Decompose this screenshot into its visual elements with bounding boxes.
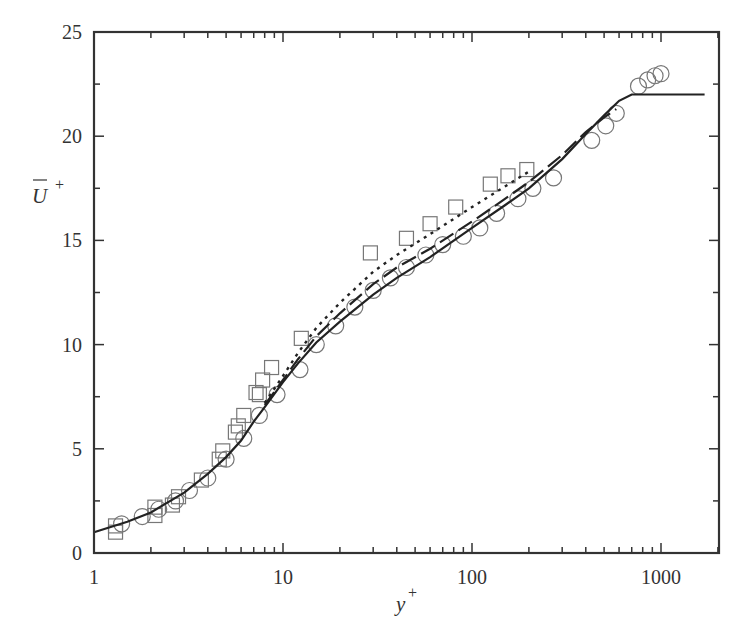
y-tick-label: 0 (72, 542, 82, 564)
square-marker (363, 246, 377, 260)
dotted-line (265, 172, 529, 403)
x-axis-ticks (151, 32, 718, 553)
circle-marker (653, 66, 669, 82)
y-tick-label: 5 (72, 438, 82, 460)
x-tick-label: 100 (457, 566, 487, 588)
square-marker (256, 373, 270, 387)
y-axis-tick-labels: 0510152025 (62, 21, 82, 564)
x-axis-label-main: y (394, 592, 406, 616)
plot-frame (94, 32, 719, 553)
solid-line (94, 95, 705, 533)
square-marker (423, 217, 437, 231)
data-markers (109, 66, 669, 539)
y-axis-label-main: U (32, 184, 49, 208)
y-tick-label: 10 (62, 334, 82, 356)
x-axis-tick-labels: 1101001000 (89, 566, 681, 588)
y-axis-ticks (94, 84, 719, 501)
circle-marker (630, 78, 646, 94)
y-tick-label: 20 (62, 125, 82, 147)
square-marker (237, 408, 251, 422)
dashed-line (265, 109, 617, 405)
x-tick-label: 10 (273, 566, 293, 588)
y-axis-label-sup: + (55, 176, 64, 193)
x-axis-label-sup: + (408, 584, 417, 601)
x-tick-label: 1000 (641, 566, 681, 588)
y-axis-label: U + (32, 176, 64, 208)
square-marker (449, 200, 463, 214)
y-tick-label: 15 (62, 229, 82, 251)
y-tick-label: 25 (62, 21, 82, 43)
data-lines (94, 95, 705, 533)
velocity-profile-chart: 1101001000 0510152025 y + U + (0, 0, 742, 639)
square-marker (483, 177, 497, 191)
x-axis-label: y + (394, 584, 417, 616)
square-marker (520, 163, 534, 177)
square-marker (399, 231, 413, 245)
square-marker (265, 361, 279, 375)
x-tick-label: 1 (89, 566, 99, 588)
